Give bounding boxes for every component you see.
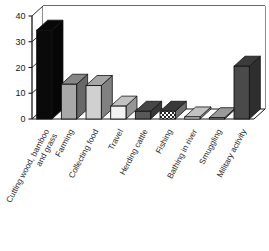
bar-side bbox=[249, 56, 260, 119]
bar-front bbox=[135, 111, 150, 119]
bar-front bbox=[234, 66, 249, 119]
bar-front bbox=[160, 111, 175, 119]
y-tick-label: 10 bbox=[15, 88, 25, 98]
category-label-0: Cutting wood, bambooand grass bbox=[5, 127, 60, 208]
bar-0[interactable] bbox=[37, 20, 63, 119]
category-label-1: Farming bbox=[54, 127, 76, 158]
y-tick-label: 40 bbox=[15, 11, 25, 21]
bar-front bbox=[185, 117, 200, 119]
category-label-line: Travel bbox=[107, 128, 126, 152]
category-label-line: Farming bbox=[54, 127, 76, 158]
bar-front bbox=[61, 84, 76, 119]
bar-front bbox=[111, 106, 126, 119]
bar-2[interactable] bbox=[86, 76, 112, 119]
category-label-line: Smuggling bbox=[198, 127, 224, 166]
category-label-5: Fishing bbox=[154, 127, 175, 155]
category-label-3: Travel bbox=[107, 128, 126, 152]
bar-front bbox=[86, 86, 101, 119]
bar-1[interactable] bbox=[61, 74, 87, 119]
category-label-line: Cutting wood, bamboo bbox=[5, 127, 52, 204]
category-label-7: Smuggling bbox=[198, 127, 224, 166]
chart-canvas: 403020100 Cutting wood, bambooand grassF… bbox=[0, 0, 269, 251]
bar-front bbox=[37, 30, 52, 119]
y-tick-label: 30 bbox=[15, 37, 25, 47]
bar-chart: 403020100 Cutting wood, bambooand grassF… bbox=[0, 0, 269, 251]
category-labels: Cutting wood, bambooand grassFarmingColl… bbox=[5, 127, 249, 209]
bar-front bbox=[209, 118, 224, 119]
y-tick-label: 20 bbox=[15, 63, 25, 73]
axis-tick-40 bbox=[32, 6, 43, 16]
category-label-line: Fishing bbox=[154, 127, 175, 155]
bar-8[interactable] bbox=[234, 56, 260, 119]
y-tick-label: 0 bbox=[20, 114, 25, 124]
y-axis bbox=[29, 16, 33, 119]
y-tick-labels: 403020100 bbox=[15, 11, 25, 124]
